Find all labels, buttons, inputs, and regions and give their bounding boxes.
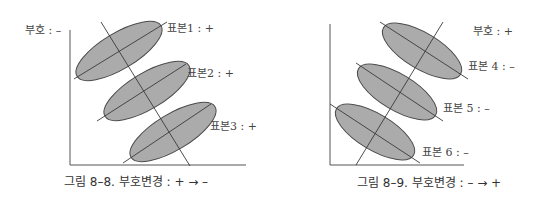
sample-1-label: 표본1 : + bbox=[167, 22, 214, 35]
sample-6-label: 표본 6 : – bbox=[422, 146, 469, 159]
sample-4-label: 표본 4 : – bbox=[468, 60, 515, 73]
sign-label: 부호 : + bbox=[473, 25, 513, 38]
figure-caption: 그림 8–8. 부호변경 : + → – bbox=[64, 175, 208, 189]
diagram-canvas: 부호 : – 표본1 : + 표본2 : + 표본3 : + 그림 8–8. 부… bbox=[0, 0, 541, 207]
sample-3-label: 표본3 : + bbox=[210, 120, 257, 133]
sign-label: 부호 : – bbox=[25, 24, 62, 37]
sample-5-label: 표본 5 : – bbox=[443, 102, 490, 115]
figure-8-9: 부호 : + 표본 4 : – 표본 5 : – 표본 6 : – 그림 8–9… bbox=[327, 12, 515, 190]
sample-2-label: 표본2 : + bbox=[187, 67, 234, 80]
figure-caption: 그림 8–9. 부호변경 : – → + bbox=[357, 176, 501, 190]
figure-8-8: 부호 : – 표본1 : + 표본2 : + 표본3 : + 그림 8–8. 부… bbox=[25, 10, 257, 189]
